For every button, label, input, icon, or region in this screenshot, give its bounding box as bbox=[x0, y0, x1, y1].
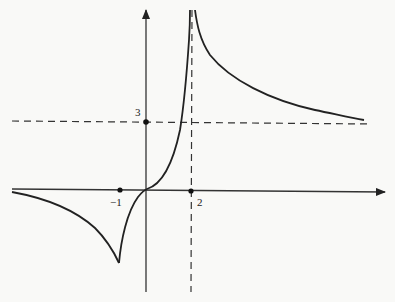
tick-label-y-3: 3 bbox=[135, 106, 141, 118]
right-branch-curve bbox=[195, 10, 364, 120]
point-x-2 bbox=[188, 188, 193, 193]
tick-label-x-neg1: −1 bbox=[110, 196, 122, 208]
x-axis bbox=[12, 189, 385, 192]
left-branch-curve bbox=[12, 192, 119, 263]
point-x-neg1 bbox=[117, 187, 122, 192]
vertical-asymptote bbox=[191, 10, 192, 292]
tick-label-x-2: 2 bbox=[197, 196, 203, 208]
point-y-3 bbox=[143, 119, 149, 125]
middle-branch-curve bbox=[119, 10, 190, 263]
function-graph: −1 2 3 bbox=[0, 0, 395, 302]
